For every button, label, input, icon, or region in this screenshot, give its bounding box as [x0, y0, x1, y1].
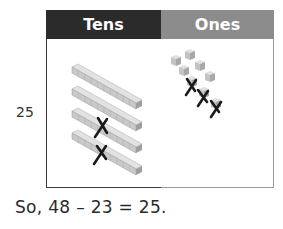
cube-1 — [171, 55, 181, 66]
row-value-label: 25 — [16, 104, 34, 120]
tens-header-label: Tens — [83, 15, 124, 34]
tens-cell — [46, 39, 162, 188]
ones-cubes-illustration — [161, 39, 273, 187]
ones-header: Ones — [161, 10, 274, 39]
cube-6-crossed — [186, 76, 197, 95]
place-value-chart: Tens Ones — [46, 10, 274, 188]
ones-cell — [161, 39, 274, 188]
cube-5 — [205, 71, 215, 82]
result-equation: So, 48 – 23 = 25. — [15, 197, 167, 217]
ones-header-label: Ones — [195, 15, 240, 34]
cube-2 — [185, 49, 195, 60]
cube-4 — [195, 60, 205, 71]
tens-header: Tens — [46, 10, 161, 39]
cube-7-crossed — [198, 87, 209, 106]
cube-8-crossed — [211, 98, 221, 117]
tens-rods-illustration — [47, 39, 161, 187]
cube-3 — [179, 65, 189, 76]
